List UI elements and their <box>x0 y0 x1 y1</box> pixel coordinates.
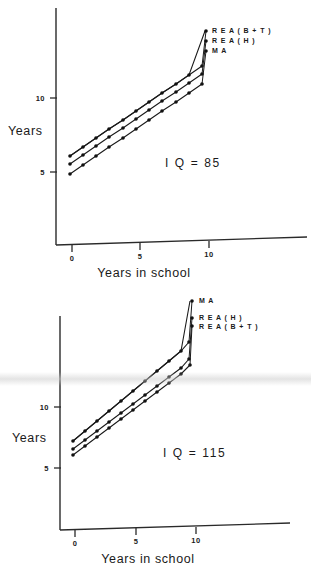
leader-dot-rea-h-top <box>204 39 208 43</box>
series-line-rea-h-top <box>68 72 204 166</box>
series-label-rea-bt-top: R E A ( B + T ) <box>212 27 271 35</box>
x-axis-line-top <box>56 237 307 245</box>
series-label-rea-h-top: R E A ( H ) <box>212 37 256 45</box>
leader-dot-rea-h-bottom <box>190 316 194 320</box>
y-tick-label-5-top: 5 <box>40 168 45 177</box>
leader-dot-ma-top <box>204 49 208 53</box>
x-tick-label-10-top: 10 <box>204 250 213 259</box>
x-axis-title-top: Years in school <box>97 266 190 280</box>
x-tick-label-0-bottom: 0 <box>73 539 78 548</box>
series-line-ma-bottom <box>71 301 191 443</box>
chart-svg-top: 10 5 0 5 10 Years Years in school <box>0 0 311 285</box>
series-label-rea-bt-bottom: R E A ( B + T ) <box>199 323 258 331</box>
x-axis-line-bottom <box>60 523 290 530</box>
chart-svg-bottom: 10 5 0 5 10 Years Years in school <box>0 285 311 571</box>
series-line-rea-h-bottom <box>71 357 191 451</box>
iq-annotation-top: I Q = 85 <box>165 156 221 170</box>
series-label-ma-top: M A <box>212 47 227 54</box>
y-tick-label-10-bottom: 10 <box>40 403 49 412</box>
y-tick-label-10-top: 10 <box>36 94 45 103</box>
chart-panel-iq-115: 10 5 0 5 10 Years Years in school <box>0 285 311 570</box>
series-line-rea-bt-top <box>68 31 205 158</box>
leader-dot-rea-bt-bottom <box>190 324 194 328</box>
series-label-ma-bottom: M A <box>199 297 214 304</box>
series-line-rea-bt-bottom <box>71 363 192 457</box>
y-axis-title-top: Years <box>8 124 43 138</box>
x-tick-label-5-bottom: 5 <box>134 537 139 546</box>
x-tick-label-0-top: 0 <box>70 254 75 263</box>
chart-panel-iq-85: 10 5 0 5 10 Years Years in school <box>0 0 311 285</box>
x-axis-title-bottom: Years in school <box>101 552 194 566</box>
series-label-rea-h-bottom: R E A ( H ) <box>199 314 243 322</box>
iq-annotation-bottom: I Q = 115 <box>163 446 226 460</box>
y-tick-label-5-bottom: 5 <box>44 464 49 473</box>
leader-dot-rea-bt-top <box>204 29 208 33</box>
x-tick-label-10-bottom: 10 <box>191 536 200 545</box>
figure-container: 10 5 0 5 10 Years Years in school <box>0 0 311 571</box>
leader-dot-ma-bottom <box>190 299 194 303</box>
x-tick-label-5-top: 5 <box>138 252 143 261</box>
y-axis-title-bottom: Years <box>12 431 47 445</box>
